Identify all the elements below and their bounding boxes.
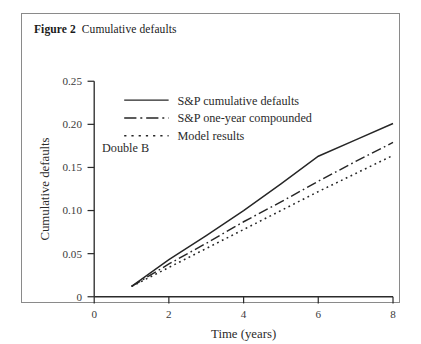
- x-axis-title: Time (years): [211, 327, 276, 341]
- x-tick-label: 4: [241, 308, 247, 320]
- series-line-sp-cumulative-defaults: [132, 123, 393, 286]
- y-tick-label: 0.10: [63, 204, 83, 216]
- legend-label: S&P one-year compounded: [178, 111, 312, 125]
- y-tick-label: 0.05: [63, 248, 83, 260]
- chart-series-group: [132, 123, 393, 286]
- y-tick-label: 0.20: [63, 118, 83, 130]
- legend-label: Model results: [178, 129, 245, 143]
- y-axis-title: Cumulative defaults: [38, 137, 52, 240]
- x-axis-tick-labels: 0 2 4 6 8: [91, 308, 396, 320]
- y-tick-label: 0: [76, 291, 82, 303]
- y-axis-tick-labels: 0 0.05 0.10 0.15 0.20 0.25: [63, 75, 83, 302]
- x-tick-label: 8: [390, 308, 396, 320]
- chart-plot-area: 0 0.05 0.10 0.15 0.20 0.25 0 2 4 6 8 Tim…: [22, 14, 421, 344]
- x-tick-label: 0: [91, 308, 97, 320]
- legend-label: S&P cumulative defaults: [178, 94, 300, 108]
- x-tick-label: 6: [315, 308, 321, 320]
- y-tick-label: 0.15: [63, 161, 83, 173]
- series-line-sp-one-year-compounded: [132, 142, 393, 286]
- x-tick-label: 2: [166, 308, 172, 320]
- annotation-double-b: Double B: [102, 141, 149, 155]
- series-line-model-results: [132, 155, 393, 286]
- y-tick-label: 0.25: [63, 75, 83, 87]
- y-axis-ticks: [88, 81, 95, 296]
- figure-frame: Figure 2Cumulative defaults 0 0.05 0.10 …: [21, 13, 400, 303]
- chart-legend: S&P cumulative defaults S&P one-year com…: [124, 94, 312, 144]
- x-axis-ticks: [94, 297, 393, 304]
